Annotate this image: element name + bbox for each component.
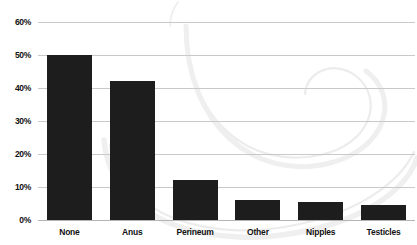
bar-anus bbox=[110, 81, 155, 220]
bar-none bbox=[47, 55, 92, 220]
y-tick-label-20: 20% bbox=[15, 149, 31, 159]
x-tick-label-nipples: Nipples bbox=[289, 227, 352, 237]
x-tick-label-anus: Anus bbox=[101, 227, 164, 237]
x-tick-label-other: Other bbox=[227, 227, 290, 237]
bar-other bbox=[235, 200, 280, 220]
y-tick-label-30: 30% bbox=[15, 116, 31, 126]
y-tick-label-60: 60% bbox=[15, 17, 31, 27]
bar-testicles bbox=[361, 205, 406, 220]
y-tick-label-50: 50% bbox=[15, 50, 31, 60]
bar-chart: 60% 50% 40% 30% 20% 10% 0% NoneAnusPerin… bbox=[0, 0, 417, 245]
y-axis: 60% 50% 40% 30% 20% 10% 0% bbox=[0, 0, 34, 245]
x-tick-label-none: None bbox=[38, 227, 101, 237]
x-axis: NoneAnusPerineumOtherNipplesTesticles bbox=[38, 224, 415, 245]
y-tick-label-40: 40% bbox=[15, 83, 31, 93]
y-tick-label-0: 0% bbox=[19, 215, 31, 225]
bar-perineum bbox=[173, 180, 218, 220]
x-tick-label-testicles: Testicles bbox=[352, 227, 415, 237]
x-tick-label-perineum: Perineum bbox=[164, 227, 227, 237]
bar-series bbox=[38, 0, 415, 245]
bar-nipples bbox=[298, 202, 343, 220]
y-tick-label-10: 10% bbox=[15, 182, 31, 192]
